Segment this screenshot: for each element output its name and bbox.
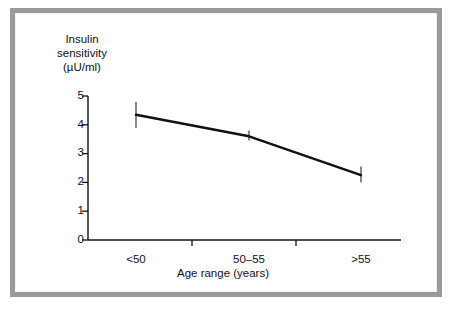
plot-area: Insulin sensitivity (µU/ml) 5 4 3 2 1 0 …	[16, 14, 438, 293]
error-bars	[136, 102, 361, 183]
line-insulin-sensitivity	[136, 115, 361, 176]
chart-canvas	[16, 14, 438, 293]
figure-frame: Insulin sensitivity (µU/ml) 5 4 3 2 1 0 …	[10, 8, 442, 297]
figure-root: Insulin sensitivity (µU/ml) 5 4 3 2 1 0 …	[0, 0, 459, 312]
axes-group	[88, 96, 401, 240]
x-tick-marks	[192, 240, 296, 246]
figure-frame-inner: Insulin sensitivity (µU/ml) 5 4 3 2 1 0 …	[15, 13, 437, 292]
data-series-line	[136, 115, 361, 176]
y-tick-marks	[82, 96, 88, 240]
